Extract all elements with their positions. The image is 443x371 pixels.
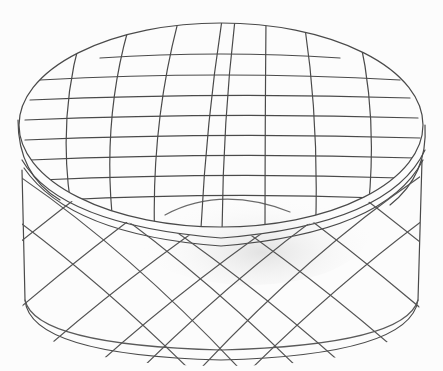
tin-box-sketch (0, 0, 443, 371)
sketch-canvas: Pencil sketch of a round cylindrical tin… (0, 0, 443, 371)
